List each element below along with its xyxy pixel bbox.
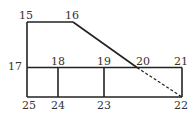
edge-20-22-dashed: [137, 68, 182, 98]
diagram-canvas: 15 16 17 18 19 20 21 22 23 24 25: [0, 0, 193, 113]
node-label-21: 21: [174, 55, 188, 68]
node-label-22: 22: [174, 99, 188, 112]
node-label-24: 24: [51, 99, 65, 112]
node-label-23: 23: [97, 99, 111, 112]
node-label-18: 18: [51, 55, 65, 68]
node-label-19: 19: [97, 55, 111, 68]
node-label-17: 17: [8, 60, 22, 73]
node-label-25: 25: [22, 99, 36, 112]
node-label-15: 15: [19, 9, 33, 22]
node-label-16: 16: [65, 9, 79, 22]
node-label-20: 20: [136, 55, 150, 68]
